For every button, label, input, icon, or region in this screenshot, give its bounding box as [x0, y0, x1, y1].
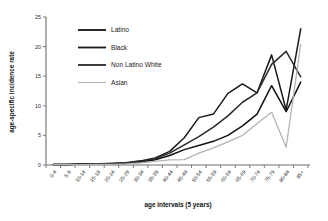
y-tick-label: 0: [38, 162, 41, 168]
x-tick-label: 50-54: [190, 169, 203, 183]
x-tick-label: 30-34: [132, 169, 145, 183]
x-axis-title: age intervals (5 years): [144, 201, 211, 209]
y-tick-label: 25: [35, 14, 41, 20]
series-layer: [53, 29, 300, 165]
y-tick-label: 5: [38, 132, 41, 138]
x-tick-label: 80-84: [278, 169, 291, 183]
x-tick-label: 55-59: [205, 169, 218, 183]
x-tick-label: 60-64: [219, 169, 232, 183]
y-axis-title: age-specific incidence rate: [8, 51, 16, 133]
x-tick-label: 65-69: [234, 169, 247, 183]
incidence-rate-line-chart: 0510152025 age-specific incidence rate 0…: [0, 0, 328, 221]
x-tick-label: 20-24: [103, 169, 116, 183]
y-tick-label: 20: [35, 44, 41, 50]
legend-label-asian: Asian: [111, 79, 128, 86]
y-tick-label: 10: [35, 103, 41, 109]
series-line-asian: [53, 44, 300, 164]
x-axis-tick-labels: 0-45-910-1415-1920-2425-2930-3435-3940-4…: [48, 169, 305, 183]
x-tick-label: 5-9: [63, 169, 72, 179]
legend-label-non-latino-white: Non Latino White: [111, 61, 162, 68]
legend-label-black: Black: [111, 44, 128, 51]
x-tick-label: 15-19: [88, 169, 101, 183]
chart-legend: LatinoBlackNon Latino WhiteAsian: [78, 26, 162, 86]
y-axis-group: 0510152025 age-specific incidence rate: [8, 14, 46, 168]
series-line-latino: [53, 82, 300, 164]
x-tick-label: 35-39: [147, 169, 160, 183]
x-axis-group: 0-45-910-1415-1920-2425-2930-3435-3940-4…: [46, 165, 310, 209]
x-tick-label: 10-14: [74, 169, 87, 183]
legend-label-latino: Latino: [111, 26, 129, 33]
x-tick-label: 70-74: [248, 169, 261, 183]
x-tick-label: 0-4: [48, 169, 57, 179]
x-tick-label: 45-49: [176, 169, 189, 183]
x-tick-label: 40-44: [161, 169, 174, 183]
y-tick-label: 15: [35, 73, 41, 79]
series-line-non-latino-white: [53, 51, 300, 164]
x-tick-label: 75-79: [263, 169, 276, 183]
series-line-black: [53, 29, 300, 165]
y-axis-tick-labels: 0510152025: [35, 14, 41, 168]
x-tick-label: 25-29: [117, 169, 130, 183]
x-tick-label: 85+: [295, 169, 305, 180]
chart-figure: 0510152025 age-specific incidence rate 0…: [0, 0, 328, 221]
